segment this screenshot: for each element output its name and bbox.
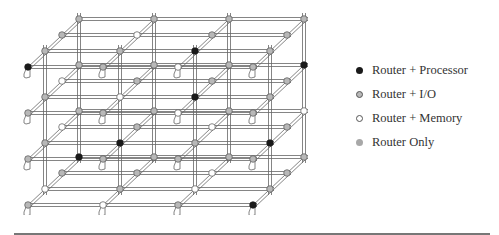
mesh-node-memory (59, 124, 66, 131)
mesh-node-io (134, 78, 141, 85)
legend-label: Router + Memory (372, 111, 462, 126)
mesh-node-processor (192, 94, 199, 101)
mesh-node-processor (267, 140, 274, 147)
3d-mesh-network-diagram (0, 0, 330, 215)
mesh-node-io (42, 140, 49, 147)
mesh-node-processor (117, 140, 124, 147)
legend: Router + Processor Router + I/O Router +… (356, 58, 468, 154)
legend-label: Router + Processor (372, 63, 468, 78)
legend-item-io: Router + I/O (356, 82, 468, 106)
mesh-node-io (100, 156, 107, 163)
mesh-node-io (226, 154, 233, 161)
processor-node-icon (356, 67, 363, 74)
mesh-node-io (226, 16, 233, 23)
mesh-node-memory (192, 186, 199, 193)
mesh-node-io (250, 156, 257, 163)
mesh-node-memory (301, 108, 308, 115)
mesh-node-io (117, 186, 124, 193)
mesh-node-memory (117, 94, 124, 101)
mesh-node-io (175, 156, 182, 163)
mesh-node-io (226, 108, 233, 115)
mesh-node-io (59, 32, 66, 39)
mesh-node-io (267, 186, 274, 193)
mesh-node-io (76, 108, 83, 115)
mesh-node-io (134, 124, 141, 131)
mesh-node-io (25, 156, 32, 163)
mesh-node-io (301, 16, 308, 23)
mesh-node-io (284, 78, 291, 85)
mesh-node-io (76, 62, 83, 69)
mesh-node-io (250, 110, 257, 117)
mesh-node-io (209, 32, 216, 39)
mesh-node-io (117, 48, 124, 55)
mesh-node-io (42, 94, 49, 101)
mesh-node-memory (175, 64, 182, 71)
mesh-node-memory (134, 32, 141, 39)
mesh-node-io (59, 170, 66, 177)
mesh-node-io (151, 108, 158, 115)
legend-label: Router + I/O (372, 87, 436, 102)
memory-node-icon (356, 115, 363, 122)
mesh-node-io (284, 170, 291, 177)
mesh-node-processor (250, 202, 257, 209)
mesh-node-io (301, 154, 308, 161)
mesh-node-io (284, 124, 291, 131)
mesh-node-io (267, 94, 274, 101)
mesh-node-io (250, 64, 257, 71)
mesh-node-memory (59, 78, 66, 85)
mesh-node-io (226, 62, 233, 69)
mesh-node-io (100, 64, 107, 71)
mesh-node-processor (192, 48, 199, 55)
mesh-node-memory (100, 202, 107, 209)
mesh-node-memory (42, 186, 49, 193)
mesh-node-io (134, 170, 141, 177)
mesh-node-io (76, 16, 83, 23)
mesh-node-processor (25, 64, 32, 71)
mesh-node-io (151, 62, 158, 69)
mesh-node-io (284, 32, 291, 39)
mesh-node-io (267, 48, 274, 55)
io-node-icon (356, 91, 363, 98)
mesh-node-memory (209, 170, 216, 177)
mesh-node-processor (301, 62, 308, 69)
mesh-node-io (151, 154, 158, 161)
mesh-node-io (42, 48, 49, 55)
legend-label: Router Only (372, 135, 434, 150)
mesh-node-io (25, 110, 32, 117)
mesh-node-memory (175, 110, 182, 117)
legend-item-router-only: Router Only (356, 130, 468, 154)
mesh-node-io (151, 16, 158, 23)
mesh-node-io (100, 110, 107, 117)
divider-rule (14, 233, 490, 235)
router-only-node-icon (356, 139, 363, 146)
mesh-node-processor (76, 154, 83, 161)
mesh-node-memory (209, 124, 216, 131)
legend-item-processor: Router + Processor (356, 58, 468, 82)
mesh-node-io (25, 202, 32, 209)
mesh-node-io (175, 202, 182, 209)
mesh-node-io (192, 140, 199, 147)
legend-item-memory: Router + Memory (356, 106, 468, 130)
mesh-node-io (209, 78, 216, 85)
